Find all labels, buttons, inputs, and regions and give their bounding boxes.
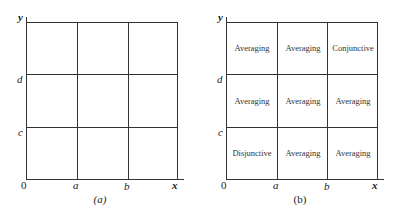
panel-a: y d c 0 a b x (a) — [0, 0, 200, 215]
cell-top-right: Conjunctive — [328, 22, 378, 74]
y-axis-label: y — [218, 12, 223, 23]
cell-middle-left: Averaging — [227, 75, 277, 127]
x-tick-b: b — [124, 181, 130, 192]
caption-b: (b) — [280, 194, 320, 205]
y-tick-d: d — [17, 74, 23, 85]
x-axis — [226, 179, 384, 180]
y-tick-d: d — [217, 74, 223, 85]
caption-a: (a) — [80, 194, 120, 205]
panel-b: Averaging Averaging Conjunctive Averagin… — [200, 0, 404, 215]
y-axis-label: y — [18, 12, 23, 23]
x-tick-a: a — [273, 180, 279, 191]
origin-label: 0 — [21, 180, 27, 191]
x-axis-label: x — [172, 180, 178, 191]
cell-top-left: Averaging — [227, 22, 277, 74]
x-tick-a: a — [73, 180, 79, 191]
y-tick-c: c — [18, 127, 23, 138]
y-axis — [26, 17, 27, 180]
x-tick-b: b — [324, 181, 330, 192]
cell-top-middle: Averaging — [278, 22, 328, 74]
grid-top-line — [26, 22, 178, 23]
x-axis-label: x — [372, 180, 378, 191]
grid-line-b — [128, 22, 129, 180]
cell-bottom-middle: Averaging — [278, 127, 328, 179]
grid-right-line — [177, 22, 178, 180]
grid-line-c — [26, 127, 178, 128]
cell-middle-middle: Averaging — [278, 75, 328, 127]
grid-line-d — [26, 74, 178, 75]
cell-bottom-left: Disjunctive — [227, 127, 277, 179]
cell-middle-right: Averaging — [328, 75, 378, 127]
cell-bottom-right: Averaging — [328, 127, 378, 179]
x-axis — [26, 179, 184, 180]
y-tick-c: c — [218, 127, 223, 138]
grid-line-a — [77, 22, 78, 180]
origin-label: 0 — [221, 180, 227, 191]
